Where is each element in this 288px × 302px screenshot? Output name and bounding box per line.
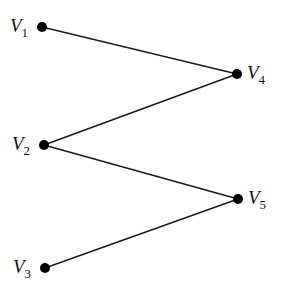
edge-v1-v4	[42, 27, 237, 74]
label-subscript: 2	[24, 143, 31, 158]
nodes-group	[37, 22, 243, 273]
node-v2	[39, 140, 49, 150]
node-label-v5: V5	[248, 187, 266, 212]
edge-v2-v4	[44, 74, 237, 145]
label-subscript: 5	[260, 197, 267, 212]
node-v3	[40, 263, 50, 273]
label-subscript: 4	[259, 72, 266, 87]
edge-v2-v5	[44, 145, 238, 199]
node-v5	[233, 194, 243, 204]
node-label-v2: V2	[12, 133, 30, 158]
node-label-v3: V3	[13, 256, 31, 281]
node-v1	[37, 22, 47, 32]
labels-group: V1V2V3V4V5	[10, 15, 266, 281]
node-label-v4: V4	[247, 62, 266, 87]
label-subscript: 3	[25, 266, 32, 281]
node-label-v1: V1	[10, 15, 28, 40]
edge-v3-v5	[45, 199, 238, 268]
edges-group	[42, 27, 238, 268]
label-subscript: 1	[22, 25, 29, 40]
graph-diagram: V1V2V3V4V5	[0, 0, 288, 302]
node-v4	[232, 69, 242, 79]
